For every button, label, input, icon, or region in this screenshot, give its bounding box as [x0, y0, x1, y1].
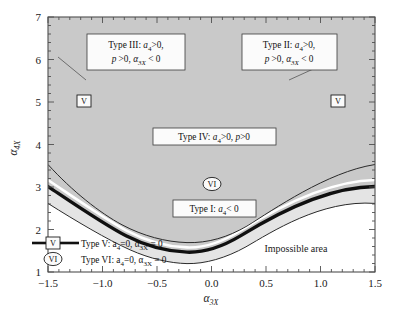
x-tick-label: 0.0 — [205, 277, 219, 289]
marker-vi-center: VI — [203, 177, 221, 190]
y-tick-label: 2 — [36, 224, 42, 236]
legend-marker-v-label: V — [50, 239, 56, 248]
marker-v-right: V — [331, 95, 345, 107]
marker-v-right-label: V — [335, 97, 341, 106]
impossible-area-label: Impossible area — [264, 243, 328, 254]
marker-v-left-label: V — [81, 97, 87, 106]
y-tick-label: 6 — [36, 54, 42, 66]
x-tick-label: 0.5 — [259, 277, 273, 289]
legend-marker-vi-label: VI — [49, 255, 58, 264]
type-ii-annotation: Type II: a4>0, p >0, α3X < 0 — [242, 34, 337, 70]
x-tick-label: −0.5 — [147, 277, 167, 289]
phase-diagram-chart: −1.5−1.0−0.50.00.51.01.5 1234567 α3X α4X… — [0, 0, 398, 316]
x-tick-label: −1.0 — [93, 277, 113, 289]
x-tick-label: 1.5 — [368, 277, 382, 289]
type-iii-annotation: Type III: a4>0, p >0, α3X < 0 — [87, 34, 185, 70]
type-i-annotation: Type I: a4< 0 — [173, 200, 256, 217]
marker-v-left: V — [77, 95, 91, 107]
marker-vi-center-label: VI — [208, 180, 217, 189]
x-tick-label: 1.0 — [314, 277, 328, 289]
y-tick-label: 3 — [36, 181, 42, 193]
y-tick-label: 1 — [36, 266, 42, 278]
x-tick-label: −1.5 — [38, 277, 58, 289]
y-axis-title-sub: 4X — [13, 139, 22, 149]
y-tick-label: 4 — [36, 139, 42, 151]
y-tick-label: 7 — [36, 11, 42, 23]
type-iv-annotation: Type IV: a4>0, p>0 — [153, 128, 276, 145]
x-axis-title-sub: 3X — [209, 298, 220, 307]
y-tick-label: 5 — [36, 96, 42, 108]
figure-container: −1.5−1.0−0.50.00.51.01.5 1234567 α3X α4X… — [0, 0, 398, 316]
